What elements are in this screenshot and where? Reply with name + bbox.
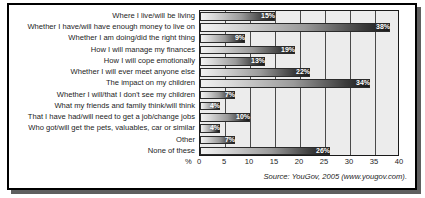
category-label: Whether I will ever meet anyone else xyxy=(70,66,195,77)
x-axis-tick-label: 25 xyxy=(320,157,328,166)
x-axis: 0510152025303540 xyxy=(199,157,399,169)
bar-value-label: 26% xyxy=(200,146,332,157)
category-label: Whether I am doing/did the right thing xyxy=(68,32,195,43)
category-label-column: Where I live/will be livingWhether I hav… xyxy=(13,10,197,156)
bar-value-label: 19% xyxy=(200,45,297,56)
bar-value-label: 15% xyxy=(200,11,277,22)
category-label: How I will cope emotionally xyxy=(104,55,195,66)
chart-screenshot: Where I live/will be livingWhether I hav… xyxy=(0,0,425,198)
x-axis-tick-label: 5 xyxy=(222,157,226,166)
x-axis-tick-label: 20 xyxy=(295,157,303,166)
source-attribution: Source: YouGov, 2005 (www.yougov.com). xyxy=(263,172,407,181)
bar-value-label: 7% xyxy=(200,90,237,101)
x-axis-tick-label: 15 xyxy=(270,157,278,166)
bar-row: 4% xyxy=(200,101,398,112)
category-label: Other xyxy=(176,134,195,145)
plot-area: 15%38%9%19%13%22%34%7%4%10%4%7%26% xyxy=(199,10,399,156)
bar-row: 34% xyxy=(200,78,398,89)
bar-value-label: 4% xyxy=(200,123,222,134)
chart-frame: Where I live/will be livingWhether I hav… xyxy=(7,3,417,190)
x-axis-tick-label: 30 xyxy=(345,157,353,166)
bar-row: 13% xyxy=(200,56,398,67)
chart-inner: Where I live/will be livingWhether I hav… xyxy=(9,5,415,188)
x-axis-tick-label: 40 xyxy=(395,157,403,166)
x-axis-unit-label: % xyxy=(185,157,192,166)
category-label: Where I live/will be living xyxy=(112,10,195,21)
bar-row: 4% xyxy=(200,123,398,134)
bar-value-label: 7% xyxy=(200,135,237,146)
category-label: Whether I have/will have enough money to… xyxy=(27,21,195,32)
bar-value-label: 22% xyxy=(200,67,312,78)
bar-value-label: 9% xyxy=(200,33,247,44)
bar-value-label: 34% xyxy=(200,78,372,89)
bar-row: 15% xyxy=(200,11,398,22)
bar-row: 19% xyxy=(200,45,398,56)
bar-value-label: 4% xyxy=(200,101,222,112)
bar-row: 7% xyxy=(200,90,398,101)
bar-rows: 15%38%9%19%13%22%34%7%4%10%4%7%26% xyxy=(200,11,398,155)
bar-value-label: 10% xyxy=(200,112,252,123)
bar-row: 22% xyxy=(200,67,398,78)
bar-row: 7% xyxy=(200,135,398,146)
bar-value-label: 38% xyxy=(200,22,392,33)
category-label: What my friends and family think/will th… xyxy=(54,100,195,111)
bar-row: 9% xyxy=(200,33,398,44)
bar-value-label: 13% xyxy=(200,56,267,67)
category-label: Who got/will get the pets, valuables, ca… xyxy=(28,122,195,133)
category-label: None of these xyxy=(148,145,195,156)
category-label: Whether I will/that I don't see my child… xyxy=(57,89,195,100)
bar-row: 26% xyxy=(200,146,398,157)
x-axis-tick-label: 0 xyxy=(197,157,201,166)
category-label: The impact on my children xyxy=(106,77,195,88)
bar-row: 10% xyxy=(200,112,398,123)
x-axis-tick-label: 10 xyxy=(245,157,253,166)
bar-row: 38% xyxy=(200,22,398,33)
category-label: That I have had/will need to get a job/c… xyxy=(28,111,195,122)
category-label: How I will manage my finances xyxy=(91,44,195,55)
x-axis-tick-label: 35 xyxy=(370,157,378,166)
